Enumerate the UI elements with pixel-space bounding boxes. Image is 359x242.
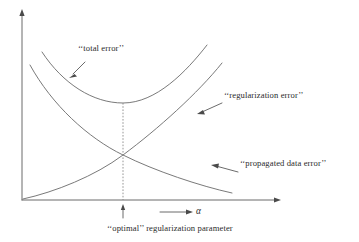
regularization-error-label: ‘‘regularization error’’	[224, 91, 303, 100]
y-axis-arrowhead	[19, 9, 24, 16]
regularization-error-curve	[23, 63, 222, 199]
total-error-curve	[42, 45, 207, 103]
x-axis-arrowhead	[274, 197, 281, 202]
propagated-data-error-annotation-arrow	[216, 166, 238, 172]
figure-canvas	[0, 0, 359, 242]
figure-caption: ‘‘optimal’’ regularization parameter	[107, 224, 233, 233]
optimal-alpha-marker-arrowhead	[121, 204, 125, 210]
propagated-data-error-annotation-arrowhead	[211, 164, 219, 169]
regularization-error-annotation-arrow	[202, 103, 222, 112]
propagated-data-error-curve	[30, 65, 232, 193]
total-error-annotation-arrowhead	[69, 74, 77, 78]
total-error-annotation-arrow	[73, 62, 85, 74]
propagated-data-error-label: ‘‘propagated data error’’	[240, 159, 326, 168]
alpha-direction-arrowhead	[186, 210, 193, 215]
regularization-tradeoff-figure: ‘‘total error’’ ‘‘regularization error’’…	[0, 0, 359, 242]
total-error-label: ‘‘total error’’	[78, 44, 124, 53]
alpha-axis-label: α	[196, 206, 201, 216]
regularization-error-annotation-arrowhead	[197, 110, 205, 114]
